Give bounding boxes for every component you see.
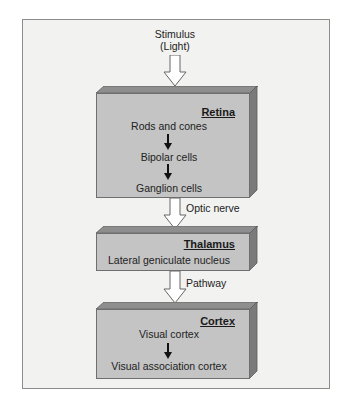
- stimulus-label: Stimulus (Light): [140, 28, 210, 52]
- arrow-down-icon: [164, 134, 172, 150]
- stage-item-ganglion: Ganglion cells: [97, 182, 241, 194]
- arrow-down-icon: [164, 343, 172, 359]
- stage-title-retina: Retina: [201, 106, 235, 118]
- stimulus-line1: Stimulus: [140, 28, 210, 40]
- stimulus-line2: (Light): [140, 40, 210, 52]
- arrow-down-icon: [164, 164, 172, 180]
- connector-label-optic-nerve: Optic nerve: [186, 202, 240, 214]
- box-front: Retina Rods and cones Bipolar cells Gang…: [96, 93, 250, 198]
- stage-item-bipolar: Bipolar cells: [97, 151, 241, 163]
- retina-box: Retina Rods and cones Bipolar cells Gang…: [96, 86, 258, 198]
- stage-title-thalamus: Thalamus: [184, 238, 235, 250]
- stage-item-lgn: Lateral geniculate nucleus: [97, 254, 241, 266]
- hollow-arrow-down-icon: [163, 271, 187, 304]
- stage-title-cortex: Cortex: [200, 315, 235, 327]
- cortex-box: Cortex Visual cortex Visual association …: [96, 302, 258, 379]
- stage-item-visual-association-cortex: Visual association cortex: [97, 360, 241, 372]
- box-front: Cortex Visual cortex Visual association …: [96, 309, 250, 379]
- box-side-bevel: [249, 86, 258, 198]
- thalamus-box: Thalamus Lateral geniculate nucleus: [96, 226, 258, 271]
- stage-item-rods-cones: Rods and cones: [97, 120, 241, 132]
- box-front: Thalamus Lateral geniculate nucleus: [96, 233, 250, 271]
- box-side-bevel: [249, 302, 258, 379]
- connector-label-pathway: Pathway: [186, 277, 226, 289]
- hollow-arrow-down-icon: [163, 55, 187, 87]
- box-side-bevel: [249, 226, 258, 271]
- stage-item-visual-cortex: Visual cortex: [97, 328, 241, 340]
